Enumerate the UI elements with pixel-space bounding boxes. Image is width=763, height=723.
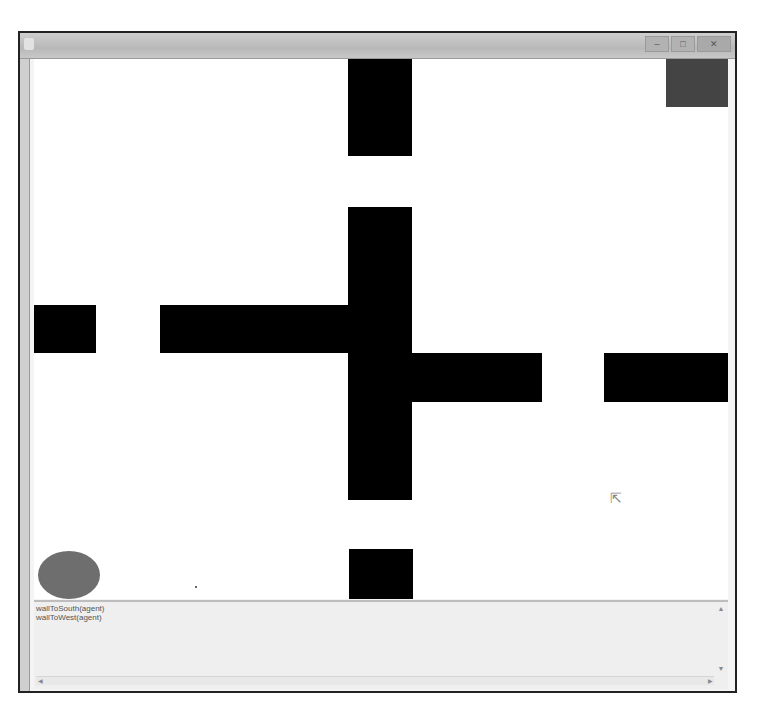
scroll-up-icon[interactable]: ▲ — [716, 604, 726, 614]
close-button[interactable]: ✕ — [697, 36, 731, 52]
vertical-scrollbar[interactable]: ▲ ▼ — [716, 604, 726, 674]
goal-square — [666, 59, 728, 107]
console-line: wallToWest(agent) — [36, 613, 104, 622]
left-frame-edge — [20, 59, 30, 691]
wall-bottom-block — [349, 549, 413, 599]
app-icon — [24, 38, 34, 50]
wall-top-vertical — [348, 59, 412, 156]
wall-right-arm — [348, 353, 542, 402]
console-output-panel[interactable]: wallToSouth(agent) wallToWest(agent) ▲ ▼… — [34, 600, 728, 689]
wall-right-stub — [604, 353, 728, 402]
marker-dot — [195, 586, 197, 588]
mouse-cursor-icon: ⇱ — [610, 491, 622, 505]
maximize-button[interactable]: □ — [671, 36, 695, 52]
scroll-right-icon[interactable]: ▶ — [706, 677, 714, 685]
window-controls: – □ ✕ — [645, 36, 731, 52]
title-bar[interactable]: – □ ✕ — [20, 33, 735, 59]
scroll-left-icon[interactable]: ◀ — [36, 677, 44, 685]
console-line: wallToSouth(agent) — [36, 604, 104, 613]
grid-world-canvas[interactable]: ⇱ — [34, 59, 728, 599]
console-lines: wallToSouth(agent) wallToWest(agent) — [36, 604, 104, 622]
scroll-down-icon[interactable]: ▼ — [716, 664, 726, 674]
agent-circle — [38, 551, 100, 599]
wall-left-arm — [160, 305, 412, 353]
horizontal-scrollbar[interactable]: ◀ ▶ — [36, 676, 714, 685]
minimize-button[interactable]: – — [645, 36, 669, 52]
wall-left-stub — [34, 305, 96, 353]
app-window: – □ ✕ ⇱ wallToSouth(agent) wallToWest(ag… — [18, 31, 737, 693]
